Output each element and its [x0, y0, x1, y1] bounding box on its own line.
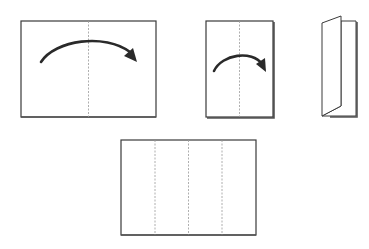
step-4-sheet: [121, 140, 256, 235]
step-1-sheet: [21, 21, 156, 117]
diagram-canvas: [0, 0, 369, 249]
folding-diagram: [0, 0, 369, 249]
step-3-booklet: [322, 16, 357, 117]
step-2-sheet: [206, 21, 274, 118]
booklet-front-panel: [322, 16, 341, 116]
